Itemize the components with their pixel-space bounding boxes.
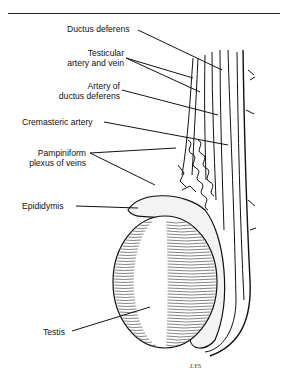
label-testis: Testis [43, 327, 65, 337]
artist-signature: LYS [190, 362, 201, 370]
label-artery-of-line1: Artery of [58, 81, 120, 91]
label-artery-of-line2: ductus deferens [44, 91, 120, 101]
label-ductus-deferens: Ductus deferens [67, 24, 130, 34]
label-pampiniform-line2: plexus of veins [16, 158, 86, 168]
label-pampiniform-line1: Pampiniform [20, 148, 86, 158]
label-testicular-line1: Testicular [58, 48, 124, 58]
label-cremasteric-artery: Cremasteric artery [22, 117, 93, 127]
label-epididymis: Epididymis [22, 201, 64, 211]
testis [113, 216, 217, 348]
label-testicular-line2: artery and vein [50, 58, 124, 68]
